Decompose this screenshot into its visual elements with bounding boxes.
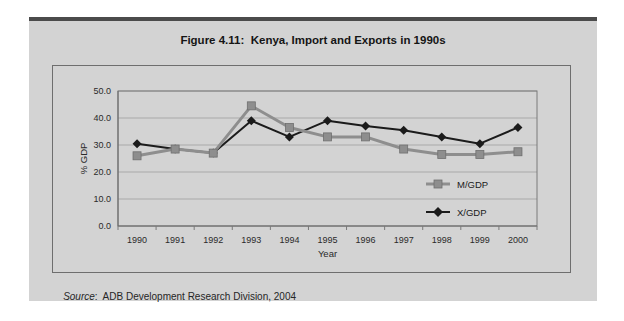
y-tick-label: 40.0 bbox=[93, 113, 111, 123]
marker-diamond-x-gdp bbox=[399, 126, 408, 135]
legend-label-xgdp: X/GDP bbox=[457, 207, 487, 218]
marker-diamond-x-gdp bbox=[133, 139, 142, 148]
y-tick-label: 0.0 bbox=[98, 221, 111, 231]
x-tick-label: 1990 bbox=[127, 235, 147, 245]
marker-square-m-gdp bbox=[133, 152, 141, 160]
marker-diamond-x-gdp bbox=[361, 122, 370, 131]
y-tick-label: 30.0 bbox=[93, 140, 111, 150]
legend-item-mgdp: M/GDP bbox=[425, 174, 488, 194]
y-tick-label: 10.0 bbox=[93, 194, 111, 204]
x-tick-label: 1994 bbox=[279, 235, 299, 245]
marker-diamond-x-gdp bbox=[513, 123, 522, 132]
x-tick-label: 2000 bbox=[508, 235, 528, 245]
x-tick-label: 1996 bbox=[356, 235, 376, 245]
marker-square-m-gdp bbox=[400, 145, 408, 153]
y-tick-label: 20.0 bbox=[93, 167, 111, 177]
marker-square-m-gdp bbox=[438, 150, 446, 158]
xgdp-diamond-marker-icon bbox=[425, 206, 451, 218]
figure-title: Figure 4.11: Kenya, Import and Exports i… bbox=[29, 33, 597, 47]
source-text: : ADB Development Research Division, 200… bbox=[95, 291, 296, 302]
legend-label-mgdp: M/GDP bbox=[457, 179, 488, 190]
x-tick-label: 1995 bbox=[317, 235, 337, 245]
x-tick-label: 1991 bbox=[165, 235, 185, 245]
chart-frame: 0.010.020.030.040.050.019901991199219931… bbox=[52, 65, 571, 273]
x-axis-title: Year bbox=[318, 248, 337, 259]
marker-square-m-gdp bbox=[247, 102, 255, 110]
line-chart: 0.010.020.030.040.050.019901991199219931… bbox=[53, 66, 570, 272]
y-tick-label: 50.0 bbox=[93, 86, 111, 96]
x-tick-label: 1997 bbox=[394, 235, 414, 245]
figure-top-rule bbox=[29, 17, 597, 21]
x-tick-label: 1993 bbox=[241, 235, 261, 245]
series-line-m-gdp bbox=[137, 106, 518, 156]
source-label: Source bbox=[63, 291, 95, 302]
x-tick-label: 1998 bbox=[432, 235, 452, 245]
marker-square-m-gdp bbox=[171, 145, 179, 153]
figure-card: Figure 4.11: Kenya, Import and Exports i… bbox=[29, 17, 597, 301]
x-tick-label: 1992 bbox=[203, 235, 223, 245]
marker-diamond-x-gdp bbox=[285, 132, 294, 141]
marker-diamond-x-gdp bbox=[475, 139, 484, 148]
marker-square-m-gdp bbox=[476, 150, 484, 158]
chart-legend: M/GDP X/GDP bbox=[425, 174, 488, 222]
y-axis-title: % GDP bbox=[78, 143, 89, 175]
marker-square-m-gdp bbox=[324, 133, 332, 141]
mgdp-square-marker-icon bbox=[425, 178, 451, 190]
source-note: Source: ADB Development Research Divisio… bbox=[52, 280, 296, 313]
legend-item-xgdp: X/GDP bbox=[425, 202, 488, 222]
marker-square-m-gdp bbox=[362, 133, 370, 141]
marker-square-m-gdp bbox=[285, 123, 293, 131]
marker-square-m-gdp bbox=[514, 148, 522, 156]
x-tick-label: 1999 bbox=[470, 235, 490, 245]
marker-diamond-x-gdp bbox=[437, 132, 446, 141]
marker-square-m-gdp bbox=[209, 149, 217, 157]
